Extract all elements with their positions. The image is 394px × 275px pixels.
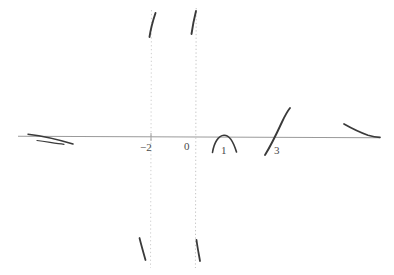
tick-label-1: 1 — [221, 145, 227, 156]
tick-label-3: 3 — [274, 145, 280, 156]
left-of-minus-2-upper-branch-path — [150, 13, 156, 37]
far-right-branch-path — [344, 124, 380, 137]
graph-figure: −2 0 1 3 — [0, 0, 394, 275]
tick-label-0: 0 — [184, 141, 190, 152]
tick-label-minus-2: −2 — [140, 142, 152, 153]
x-axis-line — [18, 136, 380, 138]
left-of-0-upper-branch-path — [192, 11, 197, 34]
right-of-0-lower-branch-path — [197, 240, 201, 261]
asymptote-x-0-line — [195, 8, 196, 268]
between-minus-2-and-0-lower-branch-path — [140, 238, 146, 260]
function-plot — [0, 0, 394, 275]
